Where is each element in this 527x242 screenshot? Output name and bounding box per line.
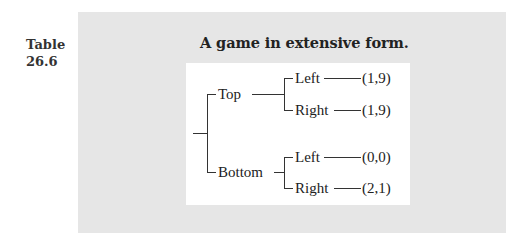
table-number-label: Table 26.6 xyxy=(26,36,65,70)
node-top-left: Left xyxy=(293,70,322,86)
node-bottom: Bottom xyxy=(216,164,265,180)
table-caption: A game in extensive form. xyxy=(200,34,409,51)
table-label-number: 26.6 xyxy=(26,53,65,70)
node-bottom-right: Right xyxy=(293,180,330,196)
payoff-bottom-right: (2,1) xyxy=(362,180,391,196)
node-bottom-left: Left xyxy=(293,149,322,165)
payoff-top-left: (1,9) xyxy=(362,70,391,86)
payoff-top-right: (1,9) xyxy=(362,102,391,118)
payoff-bottom-left: (0,0) xyxy=(362,149,391,165)
game-tree: Top Bottom Left Right Left Right (1,9) (… xyxy=(186,63,410,205)
node-top: Top xyxy=(216,86,243,102)
node-top-right: Right xyxy=(293,102,330,118)
table-label-word: Table xyxy=(26,36,65,53)
